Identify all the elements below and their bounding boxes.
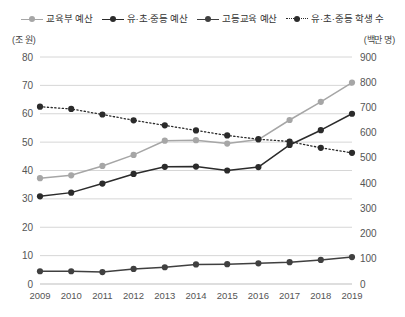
x-axis-tick-label: 2012 bbox=[123, 290, 144, 301]
left-axis-tick-label: 0 bbox=[27, 279, 33, 290]
data-point bbox=[287, 138, 293, 144]
right-axis-tick-label: 900 bbox=[360, 52, 377, 63]
data-point bbox=[318, 99, 324, 105]
x-axis-tick-label: 2014 bbox=[185, 290, 206, 301]
data-point bbox=[99, 111, 105, 117]
data-point bbox=[255, 136, 261, 142]
right-axis-tick-label: 0 bbox=[360, 279, 366, 290]
left-axis-tick-label: 10 bbox=[22, 250, 34, 261]
data-point bbox=[68, 172, 74, 178]
x-axis-tick-label: 2011 bbox=[92, 290, 112, 301]
data-point bbox=[287, 259, 293, 265]
data-point bbox=[255, 260, 261, 266]
x-axis-tick-label: 2018 bbox=[310, 290, 331, 301]
data-point bbox=[318, 127, 324, 133]
plot-area: 01020304050607080 0100200300400500600700… bbox=[0, 0, 405, 317]
data-point bbox=[131, 117, 137, 123]
data-point bbox=[37, 175, 43, 181]
data-point bbox=[68, 106, 74, 112]
series-3 bbox=[37, 104, 355, 156]
series-2 bbox=[37, 254, 355, 275]
x-axis-ticks: 2009201020112012201320142015201620172018… bbox=[29, 290, 362, 301]
data-point bbox=[37, 193, 43, 199]
data-point bbox=[193, 163, 199, 169]
right-axis-tick-label: 300 bbox=[360, 203, 377, 214]
left-axis-tick-label: 50 bbox=[22, 137, 34, 148]
data-point bbox=[162, 264, 168, 270]
data-point bbox=[162, 122, 168, 128]
chart-container: 교육부 예산 유·초·중등 예산 고등교육 예산 유·초·중등 학생 수 (조 … bbox=[0, 0, 405, 317]
data-point bbox=[224, 167, 230, 173]
data-point bbox=[162, 164, 168, 170]
data-point bbox=[318, 145, 324, 151]
left-axis-tick-label: 80 bbox=[22, 52, 34, 63]
data-point bbox=[287, 117, 293, 123]
x-axis-tick-label: 2019 bbox=[341, 290, 362, 301]
data-point bbox=[224, 140, 230, 146]
right-axis-tick-label: 500 bbox=[360, 152, 377, 163]
data-point bbox=[131, 171, 137, 177]
data-point bbox=[131, 152, 137, 158]
x-axis-tick-label: 2013 bbox=[154, 290, 175, 301]
data-point bbox=[255, 164, 261, 170]
data-point bbox=[349, 254, 355, 260]
data-point bbox=[349, 111, 355, 117]
data-point bbox=[99, 269, 105, 275]
data-point bbox=[193, 137, 199, 143]
data-point bbox=[68, 190, 74, 196]
x-axis-tick-label: 2010 bbox=[61, 290, 82, 301]
data-series-group bbox=[37, 79, 355, 275]
right-axis-tick-label: 400 bbox=[360, 178, 377, 189]
data-point bbox=[37, 104, 43, 110]
left-axis-ticks: 01020304050607080 bbox=[22, 52, 34, 290]
x-axis-tick-label: 2015 bbox=[217, 290, 238, 301]
right-axis-tick-label: 700 bbox=[360, 102, 377, 113]
left-axis-tick-label: 70 bbox=[22, 80, 34, 91]
right-axis-tick-label: 200 bbox=[360, 228, 377, 239]
right-axis-tick-label: 800 bbox=[360, 77, 377, 88]
data-point bbox=[349, 79, 355, 85]
series-line bbox=[40, 114, 352, 197]
data-point bbox=[131, 266, 137, 272]
series-1 bbox=[37, 111, 355, 200]
data-point bbox=[162, 138, 168, 144]
data-point bbox=[99, 163, 105, 169]
right-axis-ticks: 0100200300400500600700800900 bbox=[360, 52, 377, 290]
chart-svg: 01020304050607080 0100200300400500600700… bbox=[0, 0, 405, 317]
x-axis-tick-label: 2017 bbox=[279, 290, 300, 301]
data-point bbox=[224, 261, 230, 267]
data-point bbox=[193, 127, 199, 133]
data-point bbox=[68, 268, 74, 274]
x-axis-tick-label: 2009 bbox=[29, 290, 50, 301]
right-axis-tick-label: 600 bbox=[360, 127, 377, 138]
left-axis-tick-label: 60 bbox=[22, 108, 34, 119]
data-point bbox=[193, 261, 199, 267]
data-point bbox=[318, 257, 324, 263]
left-axis-tick-label: 20 bbox=[22, 222, 34, 233]
left-axis-tick-label: 30 bbox=[22, 193, 34, 204]
data-point bbox=[37, 268, 43, 274]
data-point bbox=[349, 150, 355, 156]
right-axis-tick-label: 100 bbox=[360, 253, 377, 264]
x-axis-tick-label: 2016 bbox=[248, 290, 269, 301]
data-point bbox=[99, 180, 105, 186]
left-axis-tick-label: 40 bbox=[22, 165, 34, 176]
data-point bbox=[224, 132, 230, 138]
